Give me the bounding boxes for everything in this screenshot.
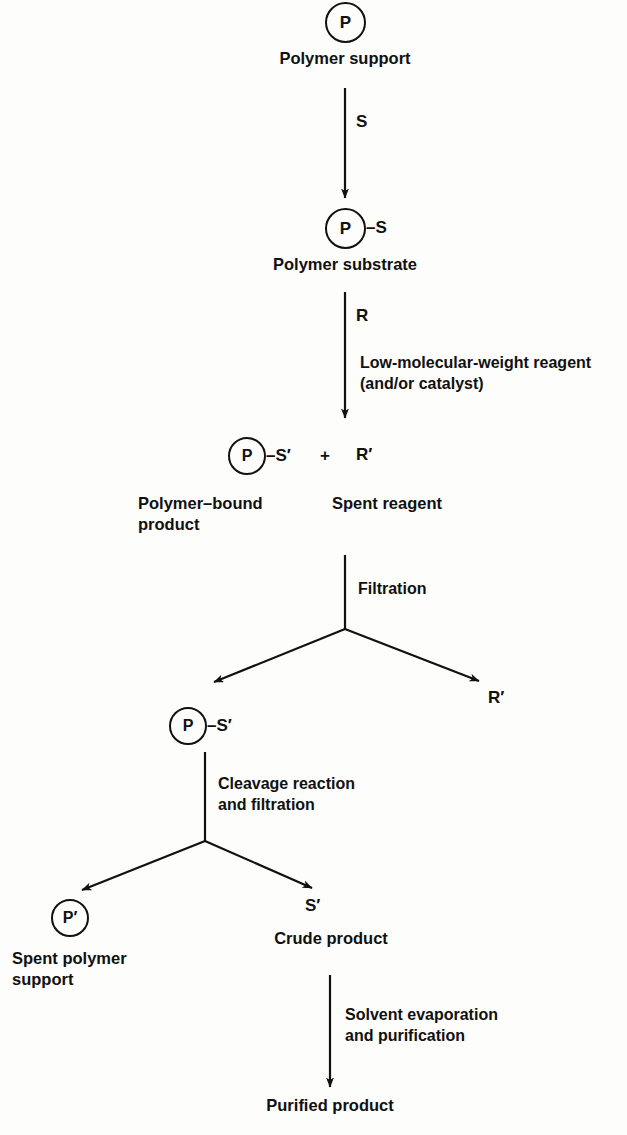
spent-polymer-caption-line2: support	[12, 970, 73, 989]
node-filtered-polymer: P	[169, 707, 207, 745]
step-workup-line1: Solvent evaporation	[345, 1006, 498, 1025]
polymer-support-caption: Polymer support	[279, 49, 410, 68]
step-add-substrate-letter: S	[356, 112, 367, 132]
polymer-bound-product-caption-line1: Polymer–bound	[138, 494, 263, 513]
filtered-polymer-symbol: P	[183, 717, 194, 735]
step-workup-line2: and purification	[345, 1027, 465, 1046]
node-spent-polymer-support: P′	[51, 899, 89, 937]
spent-polymer-caption-line1: Spent polymer	[12, 949, 127, 968]
polymer-bound-product-symbol: P	[242, 447, 253, 465]
step-add-reagent-line2: (and/or catalyst)	[360, 375, 484, 394]
step-cleavage-line2: and filtration	[218, 796, 315, 815]
step-filtration-label: Filtration	[358, 580, 426, 599]
spent-reagent-caption: Spent reagent	[332, 494, 442, 513]
polymer-substrate-symbol: P	[340, 219, 351, 239]
purified-product-caption: Purified product	[266, 1096, 393, 1115]
step-cleavage-line1: Cleavage reaction	[218, 775, 355, 794]
step-add-reagent-letter: R	[356, 306, 368, 326]
filtered-polymer-attachment: –S′	[207, 716, 232, 736]
polymer-substrate-attachment: –S	[366, 218, 387, 238]
polymer-substrate-caption: Polymer substrate	[273, 255, 417, 274]
node-polymer-substrate: P	[325, 208, 366, 249]
polymer-bound-product-caption-line2: product	[138, 515, 199, 534]
crude-product-symbol: S′	[305, 896, 320, 916]
node-polymer-support: P	[325, 2, 366, 43]
flowchart-diagram: P Polymer support S P –S Polymer substra…	[0, 0, 627, 1135]
spent-reagent-symbol: R′	[356, 445, 372, 465]
polymer-support-symbol: P	[340, 13, 351, 33]
polymer-bound-product-attachment: –S′	[266, 446, 291, 466]
reaction-plus-sign: +	[320, 446, 330, 466]
spent-polymer-support-symbol: P′	[63, 909, 78, 927]
filtered-reagent-symbol: R′	[488, 688, 504, 708]
node-polymer-bound-product: P	[228, 437, 266, 475]
step-add-reagent-line1: Low-molecular-weight reagent	[360, 354, 591, 373]
crude-product-caption: Crude product	[274, 929, 388, 948]
